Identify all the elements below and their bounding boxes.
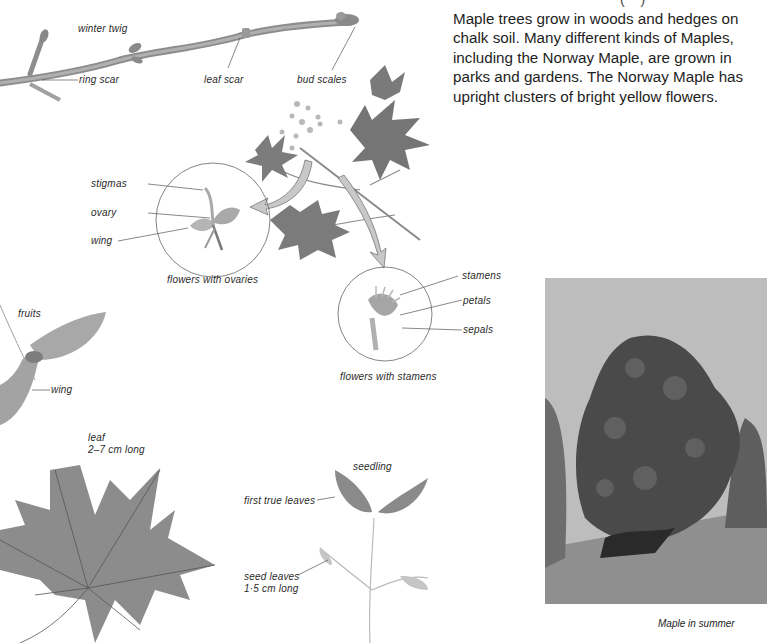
label-ring-scar: ring scar [79, 74, 119, 86]
label-petals: petals [463, 295, 491, 307]
label-stigmas: stigmas [91, 178, 127, 190]
label-fruit-wing: wing [51, 384, 72, 396]
label-bud-scales: bud scales [297, 74, 347, 86]
label-fruits: fruits [18, 308, 41, 320]
leaf-illustration [0, 465, 215, 643]
fruits-illustration [0, 305, 106, 425]
label-ovary: ovary [91, 207, 116, 219]
label-sepals: sepals [463, 324, 493, 336]
label-seedling: seedling [353, 461, 392, 473]
photo-caption: Maple in summer [658, 618, 735, 629]
label-leaf-size: 2–7 cm long [88, 444, 145, 456]
label-wing-flower: wing [91, 235, 112, 247]
tree-photo-drawing [545, 278, 767, 604]
flowering-branch-illustration [245, 65, 430, 268]
male-flower-illustration [338, 267, 462, 361]
label-seed-leaves: seed leaves [244, 571, 300, 583]
caption-flowers-stamens: flowers with stamens [340, 371, 437, 383]
twig-title: winter twig [78, 23, 127, 35]
label-first-true-leaves: first true leaves [244, 495, 315, 507]
label-leaf: leaf [88, 432, 105, 444]
caption-flowers-ovaries: flowers with ovaries [167, 274, 258, 286]
maple-tree-photo [545, 278, 767, 604]
winter-twig-illustration [0, 12, 359, 100]
label-seed-leaves-size: 1·5 cm long [244, 583, 298, 595]
label-leaf-scar: leaf scar [204, 74, 244, 86]
female-flower-illustration [118, 163, 270, 277]
seedling-illustration [298, 470, 428, 643]
label-stamens: stamens [462, 270, 501, 282]
